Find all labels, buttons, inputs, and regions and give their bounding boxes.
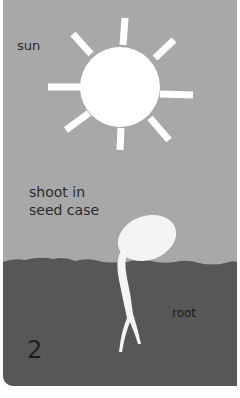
sun-label: sun [17,38,40,54]
diagram-panel: sun shoot in seed case root 2 [3,0,237,386]
step-number: 2 [27,336,42,364]
sun-icon [48,18,193,150]
root-label: root [172,305,196,321]
shoot-label-line2: seed case [29,201,99,219]
shoot-label-line1: shoot in [29,183,85,201]
